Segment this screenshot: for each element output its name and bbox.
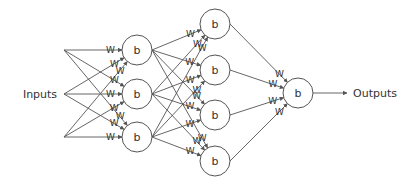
- weight-label: W: [193, 85, 202, 95]
- hidden-2-neuron: b: [200, 55, 230, 85]
- weight-label: W: [186, 75, 195, 85]
- weight-label: W: [186, 146, 195, 156]
- weight-label: W: [110, 103, 119, 113]
- weight-label: W: [186, 29, 195, 39]
- bias-label: b: [212, 64, 219, 77]
- weight-label: W: [106, 89, 115, 99]
- output-neuron: b: [283, 78, 313, 108]
- weight-label: W: [106, 132, 115, 142]
- hidden-2-neuron: b: [200, 146, 230, 176]
- weight-label: W: [185, 101, 194, 111]
- weight-label: W: [268, 96, 277, 106]
- weight-label: W: [185, 57, 194, 67]
- weight-label: W: [268, 79, 277, 89]
- neural-network-diagram: WWWWWWWWWWWWWWWWWWWWWWWWW bbbbbbbb Input…: [0, 0, 411, 188]
- inputs-label: Inputs: [23, 88, 57, 101]
- hidden-1-neuron: b: [122, 122, 152, 152]
- weight-label: W: [186, 119, 195, 129]
- hidden-2-neuron: b: [200, 9, 230, 39]
- neurons: bbbbbbbb: [122, 9, 313, 176]
- weight-label: W: [116, 66, 125, 76]
- network-canvas: WWWWWWWWWWWWWWWWWWWWWWWWW bbbbbbbb Input…: [0, 0, 411, 188]
- weight-label: W: [106, 45, 115, 55]
- weight-label: W: [193, 136, 202, 146]
- bias-label: b: [134, 131, 141, 144]
- weight-label: W: [275, 107, 284, 117]
- weight-label: W: [110, 75, 119, 85]
- weight-label: W: [198, 43, 207, 53]
- bias-label: b: [295, 87, 302, 100]
- hidden-2-neuron: b: [200, 100, 230, 130]
- bias-label: b: [212, 18, 219, 31]
- bias-label: b: [134, 44, 141, 57]
- bias-label: b: [212, 155, 219, 168]
- weight-label: W: [275, 69, 284, 79]
- weight-label: W: [110, 118, 119, 128]
- bias-label: b: [212, 109, 219, 122]
- hidden-1-neuron: b: [122, 79, 152, 109]
- bias-label: b: [134, 88, 141, 101]
- outputs-label: Outputs: [353, 87, 397, 100]
- hidden-1-neuron: b: [122, 35, 152, 65]
